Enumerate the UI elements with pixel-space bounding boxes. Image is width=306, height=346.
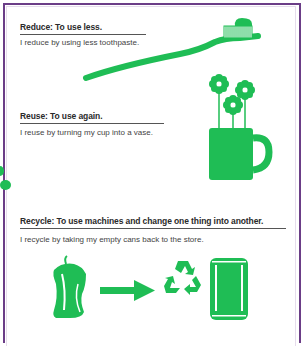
new-can-icon [208,256,250,322]
recycle-body: I recycle by taking my empty cans back t… [20,235,204,244]
reuse-title: Reuse: To use again. [20,111,164,124]
reuse-body: I reuse by turning my cup into a vase. [20,128,153,137]
recycle-icon [164,259,202,295]
side-dot-icon [0,180,11,190]
arrow-right-icon [100,280,156,302]
crushed-can-icon [52,254,92,320]
recycle-title: Recycle: To use machines and change one … [20,216,286,229]
flower-mug-icon [205,70,275,185]
